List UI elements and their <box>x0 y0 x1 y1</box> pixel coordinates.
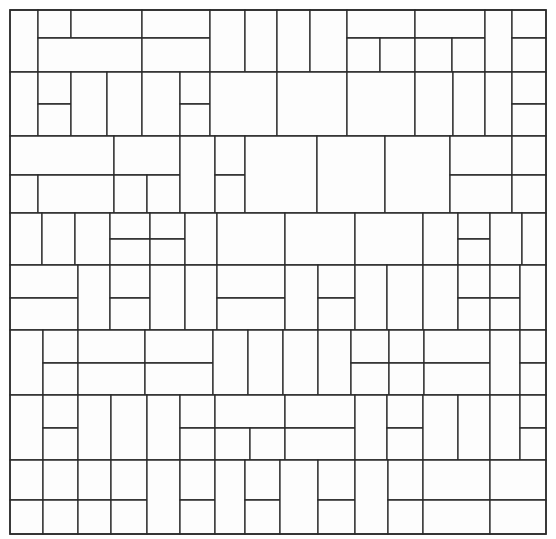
dissection-rectangle <box>245 10 277 72</box>
dissection-rectangle <box>277 72 347 136</box>
dissection-rectangle <box>520 395 546 428</box>
dissection-rectangle <box>147 175 180 213</box>
dissection-rectangle <box>458 213 490 239</box>
diagram-canvas <box>0 0 556 539</box>
dissection-rectangle <box>347 10 415 38</box>
dissection-rectangle <box>424 330 490 363</box>
dissection-rectangle <box>38 38 142 72</box>
dissection-rectangle <box>389 330 424 363</box>
dissection-rectangle <box>285 428 355 460</box>
dissection-rectangle <box>10 265 78 298</box>
dissection-rectangle <box>512 38 546 72</box>
dissection-rectangle <box>485 10 512 72</box>
dissection-rectangle <box>217 213 285 265</box>
dissection-rectangle <box>142 10 210 38</box>
dissection-rectangle <box>110 298 150 330</box>
dissection-rectangle <box>415 72 453 136</box>
dissection-rectangle <box>520 265 546 330</box>
dissection-rectangle <box>347 38 380 72</box>
dissection-rectangle <box>423 460 490 500</box>
dissection-rectangle <box>78 460 111 500</box>
dissection-rectangle <box>180 136 215 213</box>
dissection-rectangle <box>452 38 485 72</box>
dissection-rectangle <box>277 10 310 72</box>
dissection-rectangle <box>318 265 355 298</box>
dissection-rectangle <box>280 460 318 534</box>
dissection-rectangle <box>110 213 150 239</box>
dissection-rectangle <box>142 38 210 72</box>
dissection-rectangle <box>111 500 147 534</box>
dissection-rectangle <box>387 265 423 330</box>
dissection-rectangle <box>490 213 522 265</box>
dissection-rectangle <box>512 136 546 175</box>
dissection-rectangle <box>317 136 385 213</box>
dissection-rectangle <box>520 428 546 460</box>
dissection-rectangle <box>245 460 280 500</box>
dissection-rectangle <box>180 428 215 460</box>
dissection-rectangle <box>318 500 355 534</box>
dissection-rectangle <box>490 298 520 330</box>
dissection-rectangle <box>114 175 147 213</box>
dissection-rectangle <box>380 38 415 72</box>
dissection-cells <box>10 10 546 534</box>
dissection-rectangle <box>458 265 490 298</box>
dissection-rectangle <box>423 500 490 534</box>
dissection-rectangle <box>248 330 283 395</box>
dissection-rectangle <box>42 213 75 265</box>
dissection-rectangle <box>38 175 114 213</box>
dissection-rectangle <box>490 395 520 460</box>
dissection-rectangle <box>450 136 512 175</box>
dissection-rectangle <box>111 395 147 460</box>
dissection-rectangle <box>38 72 71 104</box>
dissection-rectangle <box>522 213 546 265</box>
dissection-rectangle <box>114 136 180 175</box>
dissection-rectangle <box>215 175 245 213</box>
dissection-rectangle <box>512 104 546 136</box>
dissection-rectangle <box>180 104 210 136</box>
dissection-rectangle <box>147 460 180 534</box>
dissection-rectangle <box>453 72 485 136</box>
dissection-rectangle <box>355 213 423 265</box>
dissection-rectangle <box>217 298 285 330</box>
dissection-rectangle <box>185 213 217 265</box>
dissection-rectangle <box>310 10 347 72</box>
dissection-rectangle <box>285 265 318 330</box>
dissection-rectangle <box>318 298 355 330</box>
dissection-rectangle <box>215 428 250 460</box>
rectangle-dissection-figure <box>0 0 556 539</box>
dissection-rectangle <box>150 239 185 265</box>
dissection-rectangle <box>355 395 387 460</box>
dissection-rectangle <box>111 460 147 500</box>
dissection-rectangle <box>351 330 389 363</box>
dissection-rectangle <box>210 72 277 136</box>
dissection-rectangle <box>110 265 150 298</box>
dissection-rectangle <box>385 136 450 213</box>
dissection-rectangle <box>351 363 389 395</box>
dissection-rectangle <box>458 239 490 265</box>
dissection-rectangle <box>78 265 110 330</box>
dissection-rectangle <box>185 265 217 330</box>
dissection-rectangle <box>318 330 351 395</box>
dissection-rectangle <box>387 395 423 428</box>
dissection-rectangle <box>71 10 142 38</box>
dissection-rectangle <box>388 460 423 500</box>
dissection-rectangle <box>389 363 424 395</box>
dissection-rectangle <box>43 395 78 428</box>
dissection-rectangle <box>217 265 285 298</box>
dissection-rectangle <box>355 265 387 330</box>
dissection-rectangle <box>10 395 43 460</box>
dissection-rectangle <box>520 363 546 395</box>
dissection-rectangle <box>210 10 245 72</box>
dissection-rectangle <box>245 136 317 213</box>
dissection-rectangle <box>180 72 210 104</box>
dissection-rectangle <box>10 136 114 175</box>
dissection-rectangle <box>512 175 546 213</box>
dissection-rectangle <box>423 395 458 460</box>
dissection-rectangle <box>245 500 280 534</box>
dissection-rectangle <box>215 136 245 175</box>
dissection-rectangle <box>490 460 546 500</box>
dissection-rectangle <box>10 330 43 395</box>
dissection-rectangle <box>150 265 185 330</box>
dissection-rectangle <box>215 460 245 534</box>
dissection-rectangle <box>142 72 180 136</box>
